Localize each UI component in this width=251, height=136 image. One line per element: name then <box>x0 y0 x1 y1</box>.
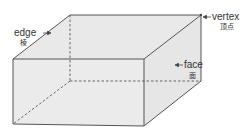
front-face <box>13 59 144 126</box>
edge-label: edge <box>14 28 36 38</box>
face-label-zh: 面 <box>189 73 196 80</box>
edge-label-zh: 棱 <box>20 40 27 47</box>
vertex-label-zh: 顶点 <box>220 24 234 31</box>
face-label: face <box>184 60 203 70</box>
vertex-dot <box>200 14 202 16</box>
prism-diagram: edge 棱 vertex 顶点 face 面 <box>0 0 251 136</box>
vertex-label: vertex <box>212 12 239 22</box>
